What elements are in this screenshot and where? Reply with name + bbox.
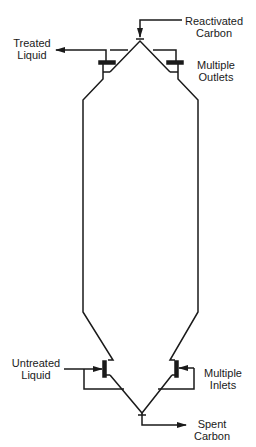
label-treated-liquid: Treated Liquid [10, 37, 54, 61]
reactivated-carbon-feed [136, 20, 182, 39]
vessel-shell [83, 41, 198, 413]
label-spent-carbon: Spent Carbon [190, 418, 234, 442]
label-reactivated-carbon: Reactivated Carbon [182, 15, 246, 39]
inlet-flanges [103, 361, 178, 377]
label-untreated-liquid: Untreated Liquid [8, 357, 64, 381]
outlet-flanges [99, 61, 183, 64]
label-multiple-inlets: Multiple Inlets [200, 367, 246, 391]
spent-carbon-discharge [138, 413, 186, 425]
untreated-liquid-line [64, 369, 124, 389]
label-multiple-outlets: Multiple Outlets [192, 59, 240, 83]
